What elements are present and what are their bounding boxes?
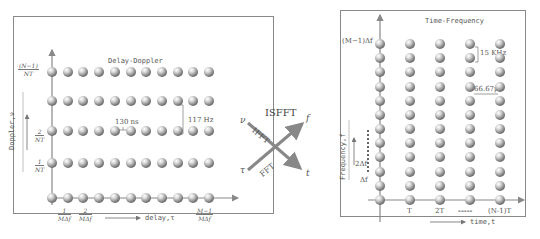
tf-grid-point bbox=[495, 39, 505, 49]
dd-grid-point bbox=[157, 67, 167, 77]
dd-y-tick: 1NT bbox=[35, 158, 44, 173]
dd-grid-point bbox=[204, 193, 214, 203]
dd-grid-point bbox=[47, 126, 57, 136]
dd-grid-point bbox=[126, 96, 136, 106]
tf-x-tick: T bbox=[407, 207, 412, 215]
dd-x-tick: M−1MΔf bbox=[196, 207, 213, 222]
tf-grid-point bbox=[405, 181, 415, 191]
tf-grid-point bbox=[465, 167, 475, 177]
dd-grid-point bbox=[110, 158, 120, 168]
dd-grid-point bbox=[63, 126, 73, 136]
dd-grid-point bbox=[204, 67, 214, 77]
tf-grid-point bbox=[405, 39, 415, 49]
dd-grid-point bbox=[126, 193, 136, 203]
dd-grid-point bbox=[173, 126, 183, 136]
dd-grid-point bbox=[63, 96, 73, 106]
dd-grid-point bbox=[126, 126, 136, 136]
dd-y-tick: (N−1)NT bbox=[18, 62, 39, 77]
dd-grid-point bbox=[173, 67, 183, 77]
tf-grid-point bbox=[405, 167, 415, 177]
tf-x-tick: ----- bbox=[458, 206, 473, 215]
tf-grid-point bbox=[375, 167, 385, 177]
dd-grid-point bbox=[47, 158, 57, 168]
tf-x-axis-label: time,t bbox=[470, 218, 495, 226]
tf-grid-point bbox=[375, 39, 385, 49]
tf-title: Time-Frequency bbox=[425, 17, 484, 25]
dd-grid-point bbox=[157, 158, 167, 168]
dd-grid-point bbox=[47, 96, 57, 106]
tf-grid-point bbox=[375, 181, 385, 191]
dd-x-tick: 1MΔf bbox=[58, 207, 71, 222]
tf-y-tick: (M−1)Δf bbox=[342, 37, 373, 45]
tf-y-tick: 2Δf bbox=[355, 160, 367, 168]
tf-grid-point bbox=[435, 167, 445, 177]
dd-grid-point bbox=[110, 67, 120, 77]
tf-grid-point bbox=[495, 181, 505, 191]
dd-grid-point bbox=[47, 67, 57, 77]
tf-grid-point bbox=[495, 195, 505, 205]
dd-grid-point bbox=[63, 67, 73, 77]
tf-grid-point bbox=[465, 96, 475, 106]
tf-x-tick: 2T bbox=[435, 207, 444, 215]
dd-grid-point bbox=[204, 96, 214, 106]
tf-grid-point bbox=[435, 96, 445, 106]
tf-x-tick: (N-1)T bbox=[488, 207, 511, 215]
tf-grid-point bbox=[465, 110, 475, 120]
delay-resolution-label: 130 ns bbox=[115, 118, 139, 126]
dd-y-tick: 2NT bbox=[35, 128, 44, 143]
tf-grid-point bbox=[405, 96, 415, 106]
tf-grid-point bbox=[375, 195, 385, 205]
dd-grid-point bbox=[157, 193, 167, 203]
tf-grid-point bbox=[495, 96, 505, 106]
dd-grid-point bbox=[204, 158, 214, 168]
tf-grid-point bbox=[375, 96, 385, 106]
tf-grid-point bbox=[495, 110, 505, 120]
tf-grid-point bbox=[435, 195, 445, 205]
dd-grid-point bbox=[110, 193, 120, 203]
dd-grid-point bbox=[110, 96, 120, 106]
tf-grid-point bbox=[465, 39, 475, 49]
tf-grid-point bbox=[495, 167, 505, 177]
f-label: f bbox=[306, 113, 309, 123]
tf-grid-point bbox=[375, 82, 385, 92]
dd-grid-point bbox=[204, 126, 214, 136]
dd-y-axis-label: Doppler,ν bbox=[8, 112, 16, 150]
dd-title: Delay-Doppler bbox=[108, 57, 163, 65]
tf-grid-point bbox=[405, 82, 415, 92]
dd-x-tick: 2MΔf bbox=[79, 207, 92, 222]
dd-grid-point bbox=[63, 158, 73, 168]
tf-grid-point bbox=[435, 39, 445, 49]
tf-grid-point bbox=[405, 195, 415, 205]
tf-y-tick: Δf bbox=[360, 176, 368, 184]
tf-grid-point bbox=[375, 110, 385, 120]
dd-grid-point bbox=[126, 158, 136, 168]
dd-grid-point bbox=[157, 96, 167, 106]
tf-grid-point bbox=[465, 181, 475, 191]
dd-grid-point bbox=[173, 96, 183, 106]
tf-grid-point bbox=[435, 82, 445, 92]
tf-grid-point bbox=[495, 82, 505, 92]
dd-grid-point bbox=[173, 193, 183, 203]
tf-grid-point bbox=[405, 110, 415, 120]
dd-grid-point bbox=[63, 193, 73, 203]
dd-x-axis-label: delay,τ bbox=[145, 214, 175, 222]
tf-y-axis-label: Frequency,f bbox=[339, 134, 347, 180]
dd-grid-point bbox=[157, 126, 167, 136]
isfft-label: ISFFT bbox=[265, 107, 296, 118]
dd-grid-point bbox=[126, 67, 136, 77]
dd-grid-point bbox=[110, 126, 120, 136]
dd-grid-point bbox=[173, 158, 183, 168]
tf-grid-point bbox=[465, 195, 475, 205]
nu-label: ν bbox=[240, 115, 245, 125]
t-label: t bbox=[306, 168, 310, 178]
doppler-resolution-label: 117 Hz bbox=[188, 116, 213, 124]
tau-label: τ bbox=[240, 165, 245, 175]
dd-grid-point bbox=[47, 193, 57, 203]
tf-grid-point bbox=[465, 82, 475, 92]
tf-grid-point bbox=[435, 110, 445, 120]
tf-grid-point bbox=[435, 181, 445, 191]
